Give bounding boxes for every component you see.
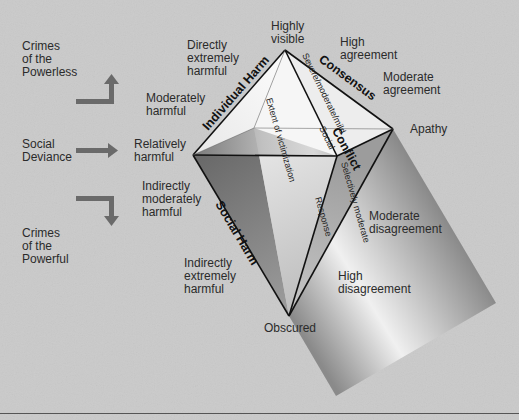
disagreement-moderate: Moderate disagreement xyxy=(369,210,442,236)
label-text: Crimes of the Powerless xyxy=(22,40,77,79)
disagreement-high: High disagreement xyxy=(338,270,411,296)
label-crimes-of-the-powerful: Crimes of the Powerful xyxy=(22,227,69,266)
harm-relatively: Relatively harmful xyxy=(134,138,186,164)
agreement-high: High agreement xyxy=(340,36,397,62)
label-text: Social Deviance xyxy=(22,138,72,164)
harm-indirectly-moderately: Indirectly moderately harmful xyxy=(142,180,201,219)
bottom-divider xyxy=(0,413,519,414)
label-crimes-of-the-powerless: Crimes of the Powerless xyxy=(22,40,77,79)
edge-front-left xyxy=(193,155,337,156)
harm-indirectly-extremely: Indirectly extremely harmful xyxy=(184,257,236,296)
visibility-obscured: Obscured xyxy=(264,322,316,335)
harm-moderately: Moderately harmful xyxy=(146,92,205,118)
agreement-apathy: Apathy xyxy=(410,123,447,136)
harm-directly-extremely: Directly extremely harmful xyxy=(187,39,239,78)
label-social-deviance: Social Deviance xyxy=(22,138,72,164)
visibility-highly-visible: Highly visible xyxy=(271,20,304,46)
agreement-moderate: Moderate agreement xyxy=(383,71,440,97)
label-text: Crimes of the Powerful xyxy=(22,227,69,266)
